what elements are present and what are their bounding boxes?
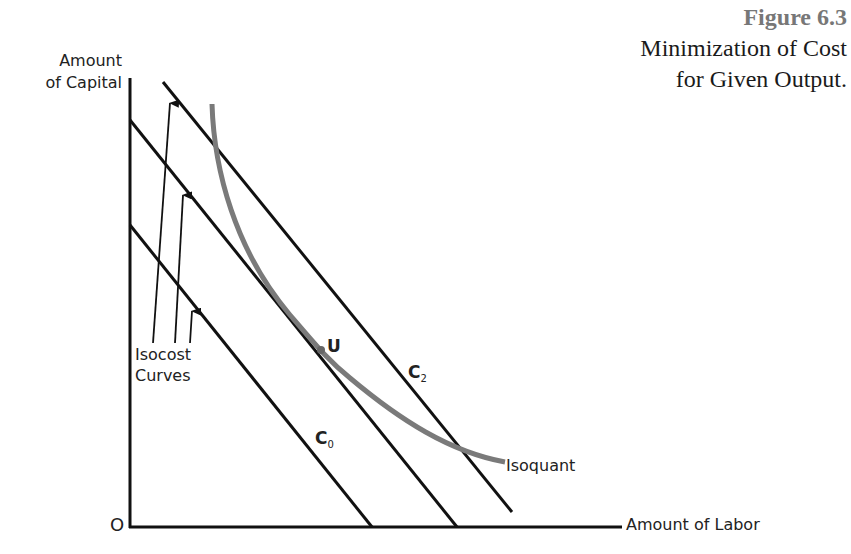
figure-title-line2: for Given Output. (640, 64, 847, 95)
tangency-point-u (317, 346, 325, 354)
c0-label-main: C (315, 428, 327, 448)
figure-caption: Figure 6.3 Minimization of Cost for Give… (640, 2, 847, 95)
x-axis-label: Amount of Labor (626, 515, 760, 534)
isoquant-label: Isoquant (506, 456, 575, 475)
isoquant-curve (212, 104, 505, 462)
c0-label-sub: 0 (327, 439, 333, 450)
origin-label: O (110, 514, 124, 535)
isocost-line-c1 (130, 120, 457, 527)
y-axis-label-line2: of Capital (26, 72, 122, 94)
isocost-curves-label: Isocost Curves (135, 344, 191, 386)
figure: Figure 6.3 Minimization of Cost for Give… (0, 0, 851, 554)
c2-label: C2 (408, 362, 427, 384)
c2-label-main: C (408, 362, 420, 382)
c0-label: C0 (315, 428, 334, 450)
y-axis-label-line1: Amount (26, 50, 122, 72)
point-u-label: U (327, 336, 341, 356)
arrow-to-c1 (175, 195, 183, 343)
arrow-to-c2 (153, 103, 170, 343)
arrow-to-c0 (190, 311, 192, 343)
y-axis-label: Amount of Capital (26, 50, 122, 94)
figure-number: Figure 6.3 (640, 2, 847, 33)
isocost-label-line2: Curves (135, 365, 191, 386)
isocost-label-line1: Isocost (135, 344, 191, 365)
figure-title-line1: Minimization of Cost (640, 33, 847, 64)
c2-label-sub: 2 (420, 373, 426, 384)
